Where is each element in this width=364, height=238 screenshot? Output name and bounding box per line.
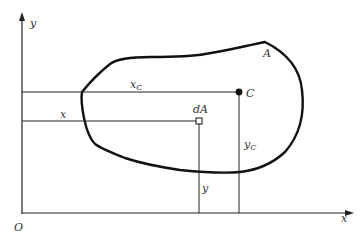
element-da-square-icon <box>196 118 202 124</box>
xc-label: xC <box>130 78 142 92</box>
yc-label: yC <box>243 138 256 152</box>
y-axis-label: y <box>29 17 37 30</box>
x-label: x <box>60 108 67 121</box>
x-axis-label: x <box>341 212 348 225</box>
y-label: y <box>201 182 209 195</box>
da-label: dA <box>193 103 208 116</box>
centroid-diagram: y O x A C xC yC x dA y <box>0 0 364 238</box>
centroid-label: C <box>246 87 255 100</box>
y-axis-arrow-icon <box>19 12 25 21</box>
region-label: A <box>262 47 271 60</box>
centroid-dot-icon <box>236 89 243 96</box>
origin-label: O <box>14 221 23 234</box>
axes <box>19 12 354 216</box>
